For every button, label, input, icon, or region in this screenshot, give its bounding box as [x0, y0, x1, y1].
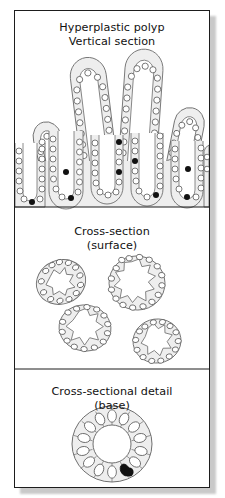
cross-section-4 [130, 316, 184, 367]
caption-cross-sectional-detail: Cross-sectional detail (base) [15, 385, 209, 412]
caption-cross-section: Cross-section (surface) [15, 225, 209, 252]
crypt-5 [171, 141, 204, 208]
crypt-4 [131, 133, 163, 206]
cross-section-3 [56, 301, 114, 355]
base-detail-crypt [72, 406, 152, 482]
cross-section-1 [30, 252, 93, 312]
villus-edge-right [204, 145, 209, 207]
hyperplastic-polyp-figure: Hyperplastic polyp Vertical section Cros… [0, 0, 225, 498]
panel-vertical-section [15, 48, 209, 209]
cross-section-2 [103, 250, 169, 316]
panel-base-detail [72, 406, 152, 482]
caption-vertical-section: Hyperplastic polyp Vertical section [15, 21, 209, 48]
dark-nucleus-base [124, 467, 133, 476]
figure-plate: Hyperplastic polyp Vertical section Cros… [14, 10, 210, 488]
panel-cross-sections [15, 250, 209, 369]
crypt-3 [91, 135, 123, 204]
crypt-2 [49, 131, 83, 209]
